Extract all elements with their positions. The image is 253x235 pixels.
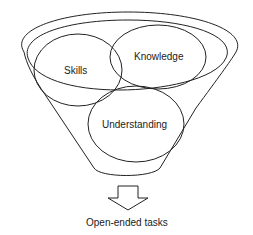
understanding-label: Understanding bbox=[102, 119, 167, 130]
skills-label: Skills bbox=[64, 65, 87, 76]
funnel-diagram: Skills Knowledge Understanding Open-ende… bbox=[0, 0, 253, 235]
funnel-inner-rim bbox=[27, 20, 227, 90]
funnel-outline bbox=[22, 12, 238, 176]
knowledge-label: Knowledge bbox=[134, 51, 184, 62]
output-label: Open-ended tasks bbox=[86, 217, 168, 228]
down-arrow-icon bbox=[108, 186, 148, 210]
